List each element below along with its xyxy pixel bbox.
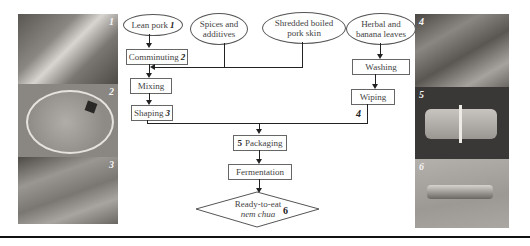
- connector: [367, 104, 368, 124]
- fermentation-label: Fermentation: [236, 167, 284, 177]
- photo-number: 2: [109, 86, 114, 97]
- bowl: [26, 90, 114, 154]
- product-number: 6: [283, 205, 288, 216]
- photo-comminuted-meat: 2: [18, 84, 118, 157]
- step-comminuting: Comminuting2: [126, 49, 188, 65]
- connector: [302, 42, 303, 68]
- bottom-rule: [0, 236, 530, 238]
- shaping-label: Shaping: [134, 108, 164, 118]
- photo-number: 1: [109, 16, 114, 27]
- spices-label: Spices and additives: [199, 19, 239, 39]
- arrow-left-icon: [150, 64, 155, 70]
- connector: [224, 43, 225, 68]
- leaves-label: Herbal and banana leaves: [350, 19, 412, 39]
- photo-nem-chua: 6: [415, 159, 509, 228]
- step-fermentation: Fermentation: [228, 164, 292, 180]
- packaging-label: Packaging: [245, 138, 283, 148]
- input-spices: Spices and additives: [190, 13, 248, 45]
- pork-skin-label: Shredded boiled pork skin: [268, 18, 340, 38]
- right-photo-column: 4 5 6: [415, 14, 509, 228]
- step-mixing: Mixing: [130, 78, 172, 94]
- lean-pork-label: Lean pork: [131, 20, 168, 30]
- string: [459, 105, 462, 143]
- arrow-down-icon: [146, 43, 152, 48]
- photo-number: 4: [419, 16, 424, 27]
- step-packaging: 5Packaging: [233, 135, 287, 151]
- packaging-number: 5: [238, 138, 243, 148]
- arrow-down-icon: [256, 129, 262, 134]
- comminuting-label: Comminuting: [129, 52, 179, 62]
- input-leaves: Herbal and banana leaves: [346, 13, 416, 45]
- photo-number: 5: [419, 89, 424, 100]
- photo-number: 6: [419, 161, 424, 172]
- lean-pork-number: 1: [170, 20, 175, 30]
- washing-label: Washing: [365, 62, 396, 72]
- product-line1: Ready-to-eat: [230, 199, 286, 209]
- merge-line: [147, 123, 368, 124]
- leaves-number: 4: [356, 108, 361, 119]
- step-wiping: Wiping: [351, 89, 395, 105]
- sausage: [427, 185, 493, 199]
- shaping-number: 3: [166, 108, 171, 118]
- product-label: Ready-to-eat nem chua: [230, 199, 286, 219]
- product-line2: nem chua: [230, 209, 286, 219]
- input-lean-pork: Lean pork1: [123, 14, 183, 36]
- input-pork-skin: Shredded boiled pork skin: [262, 12, 346, 44]
- mixing-label: Mixing: [138, 81, 165, 91]
- merge-line: [152, 67, 303, 68]
- step-shaping: Shaping3: [131, 105, 173, 121]
- comminuting-number: 2: [181, 52, 186, 62]
- photo-shaping: 3: [18, 157, 118, 224]
- step-washing: Washing: [352, 59, 410, 75]
- photo-lean-pork: 1: [18, 14, 118, 84]
- photo-number: 3: [109, 159, 114, 170]
- wiping-label: Wiping: [360, 92, 387, 102]
- left-photo-column: 1 2 3: [18, 14, 118, 224]
- photo-packaged-roll: 5: [415, 87, 509, 159]
- photo-leaves: 4: [415, 14, 509, 87]
